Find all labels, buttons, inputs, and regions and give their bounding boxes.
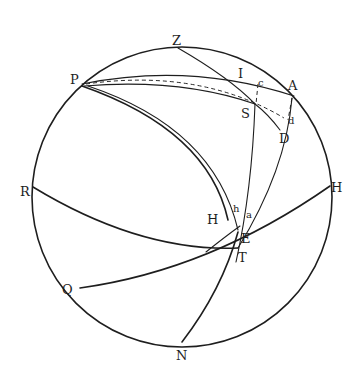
arc-Q-H	[80, 186, 330, 288]
arc-P-N-2	[88, 86, 238, 230]
arc-P-N-1	[82, 86, 228, 220]
label-Z: Z	[172, 33, 181, 48]
outer-circle	[32, 47, 332, 347]
label-A: A	[287, 78, 298, 93]
sphere-diagram: Z P I c A d S D R H h a H E T Q N	[0, 0, 364, 371]
arc-S-D	[255, 104, 280, 130]
label-T: T	[238, 250, 247, 265]
label-d: d	[288, 115, 295, 126]
label-c: c	[258, 77, 264, 88]
label-S: S	[241, 106, 250, 121]
label-H-inner: H	[207, 212, 218, 227]
label-h: h	[233, 203, 240, 214]
label-D: D	[279, 131, 289, 146]
label-a: a	[246, 209, 252, 220]
label-R: R	[20, 184, 31, 199]
label-I: I	[238, 66, 243, 81]
label-E: E	[241, 231, 251, 246]
label-Q: Q	[62, 282, 73, 297]
label-H-right: H	[331, 180, 342, 195]
label-N: N	[176, 348, 187, 363]
label-P: P	[70, 72, 79, 87]
